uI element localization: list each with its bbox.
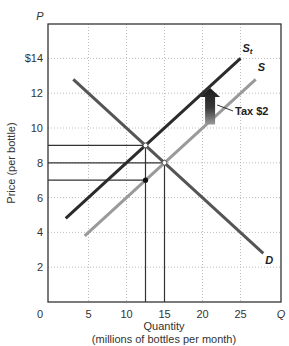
- x-tick-label: 0: [37, 308, 43, 320]
- equilibrium-point: [162, 160, 167, 165]
- curve-label-s: S: [258, 61, 266, 73]
- curve-label-st: St: [243, 42, 253, 56]
- y-axis-symbol: P: [36, 10, 44, 22]
- supply-demand-tax-chart: StSD 051015202524681012$14 Tax $2 P Q Qu…: [0, 0, 289, 346]
- equilibrium-point: [143, 143, 148, 148]
- x-axis-title: Quantity: [144, 320, 185, 332]
- y-tick-label: 8: [37, 157, 43, 169]
- curve-s: [85, 79, 256, 236]
- y-tick-label: 6: [37, 192, 43, 204]
- y-tick-label: 4: [37, 226, 43, 238]
- y-tick-label: $14: [25, 52, 43, 64]
- y-tick-label: 10: [31, 122, 43, 134]
- y-tick-label: 12: [31, 87, 43, 99]
- x-tick-label: 5: [85, 308, 91, 320]
- y-tick-label: 2: [37, 261, 43, 273]
- x-axis-subtitle: (millions of bottles per month): [92, 333, 236, 345]
- net-price-point: [143, 178, 148, 183]
- x-tick-label: 20: [196, 308, 208, 320]
- x-tick-label: 10: [120, 308, 132, 320]
- curve-st: [66, 58, 241, 218]
- x-tick-label: 15: [158, 308, 170, 320]
- x-tick-label: 25: [234, 308, 246, 320]
- y-axis-title: Price (per bottle): [5, 122, 17, 203]
- curve-label-d: D: [265, 254, 273, 266]
- x-axis-symbol: Q: [277, 308, 286, 320]
- reference-lines: [48, 145, 165, 302]
- tax-label: Tax $2: [235, 105, 268, 117]
